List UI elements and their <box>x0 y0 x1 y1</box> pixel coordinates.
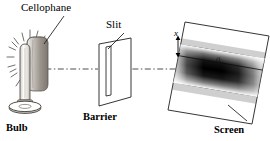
cellophane-leader <box>44 16 64 44</box>
cellophane-label: Cellophane <box>21 1 71 13</box>
diagram-graphics <box>0 0 270 141</box>
screen <box>168 22 270 124</box>
figure-canvas: Cellophane Slit Bulb Barrier Screen x 0 <box>0 0 270 141</box>
slit-aperture <box>106 46 111 96</box>
bulb-label: Bulb <box>6 122 28 133</box>
x-distance-arrow <box>176 36 181 58</box>
screen-label: Screen <box>214 124 244 135</box>
barrier-label: Barrier <box>83 111 117 122</box>
barrier <box>99 33 131 106</box>
slit-label: Slit <box>106 18 121 30</box>
center-zero-label: 0 <box>216 56 220 65</box>
x-distance-label: x <box>174 28 178 38</box>
bulb-base <box>9 100 41 113</box>
bulb-tube <box>20 44 30 100</box>
bulb-assembly <box>7 16 64 113</box>
